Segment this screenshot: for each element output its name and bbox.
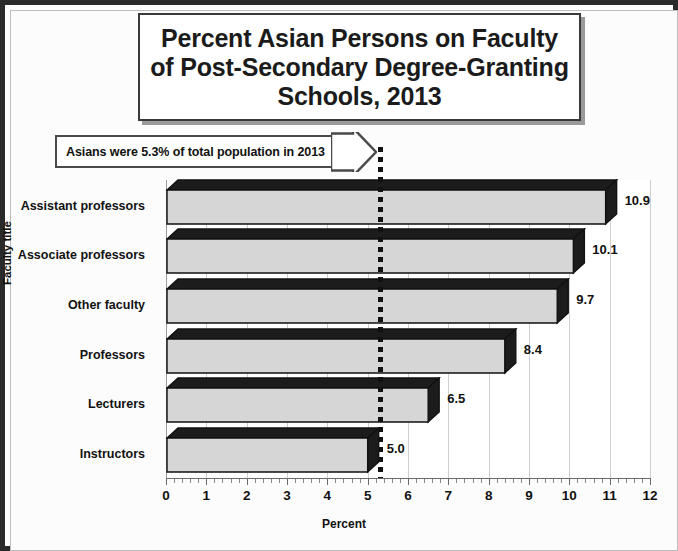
x-axis-minor-tick bbox=[376, 479, 377, 483]
x-axis-minor-tick bbox=[473, 479, 474, 483]
x-axis-tick-label: 1 bbox=[191, 488, 221, 503]
bar-value-label: 10.9 bbox=[625, 193, 650, 208]
x-axis-minor-tick bbox=[545, 479, 546, 483]
bar[interactable] bbox=[166, 228, 586, 275]
x-axis-tick-label: 0 bbox=[151, 488, 181, 503]
x-axis-minor-tick bbox=[222, 479, 223, 483]
x-axis-minor-tick bbox=[255, 479, 256, 483]
x-axis-minor-tick bbox=[295, 479, 296, 483]
chart-title-box: Percent Asian Persons on Faculty of Post… bbox=[138, 13, 581, 121]
x-axis-tick bbox=[166, 478, 167, 485]
bar[interactable] bbox=[166, 278, 570, 325]
x-axis-tick-label: 6 bbox=[393, 488, 423, 503]
x-axis-minor-tick bbox=[440, 479, 441, 483]
x-axis-minor-tick bbox=[618, 479, 619, 483]
bar[interactable] bbox=[166, 179, 619, 226]
x-axis-tick bbox=[287, 478, 288, 485]
x-axis-tick-label: 11 bbox=[595, 488, 625, 503]
x-axis-tick-label: 3 bbox=[272, 488, 302, 503]
x-axis-minor-tick bbox=[343, 479, 344, 483]
x-axis-tick bbox=[489, 478, 490, 485]
bar-3d-shape bbox=[166, 377, 441, 424]
bar[interactable] bbox=[166, 377, 441, 424]
x-axis-tick-label: 10 bbox=[554, 488, 584, 503]
x-axis-minor-tick bbox=[585, 479, 586, 483]
bar-value-label: 8.4 bbox=[524, 342, 542, 357]
x-axis-minor-tick bbox=[416, 479, 417, 483]
x-axis-tick bbox=[368, 478, 369, 485]
x-axis-minor-tick bbox=[432, 479, 433, 483]
chart-title-line-2: of Post-Secondary Degree-Granting bbox=[150, 53, 568, 82]
bar-3d-shape bbox=[166, 179, 619, 226]
x-axis-minor-tick bbox=[537, 479, 538, 483]
x-axis-minor-tick bbox=[521, 479, 522, 483]
x-axis-minor-tick bbox=[400, 479, 401, 483]
x-axis-minor-tick bbox=[634, 479, 635, 483]
x-axis-minor-tick bbox=[311, 479, 312, 483]
x-axis-minor-tick bbox=[271, 479, 272, 483]
x-axis-tick bbox=[610, 478, 611, 485]
bar-value-label: 9.7 bbox=[576, 292, 594, 307]
annotation-callout: Asians were 5.3% of total population in … bbox=[55, 132, 377, 172]
gridline bbox=[650, 180, 651, 478]
x-axis-minor-tick bbox=[577, 479, 578, 483]
x-axis-minor-tick bbox=[505, 479, 506, 483]
y-axis-category-label: Professors bbox=[80, 348, 145, 362]
annotation-callout-body: Asians were 5.3% of total population in … bbox=[55, 135, 335, 168]
x-axis-tick-label: 8 bbox=[474, 488, 504, 503]
x-axis-minor-tick bbox=[602, 479, 603, 483]
x-axis-tick-label: 12 bbox=[635, 488, 665, 503]
x-axis-minor-tick bbox=[214, 479, 215, 483]
x-axis-tick bbox=[650, 478, 651, 485]
x-axis-minor-tick bbox=[182, 479, 183, 483]
chart-title-line-3: Schools, 2013 bbox=[150, 82, 568, 111]
x-axis-tick bbox=[206, 478, 207, 485]
bar-3d-shape bbox=[166, 228, 586, 275]
bar[interactable] bbox=[166, 328, 518, 375]
x-axis-minor-tick bbox=[319, 479, 320, 483]
x-axis-minor-tick bbox=[464, 479, 465, 483]
x-axis-minor-tick bbox=[231, 479, 232, 483]
x-axis-tick-label: 2 bbox=[232, 488, 262, 503]
x-axis-minor-tick bbox=[626, 479, 627, 483]
x-axis-minor-tick bbox=[553, 479, 554, 483]
x-axis-minor-tick bbox=[497, 479, 498, 483]
bar-3d-shape bbox=[166, 328, 518, 375]
x-axis-minor-tick bbox=[335, 479, 336, 483]
y-axis-category-labels: Assistant professorsAssociate professors… bbox=[5, 180, 157, 478]
x-axis-title: Percent bbox=[5, 517, 678, 531]
reference-line bbox=[378, 147, 383, 478]
annotation-text: Asians were 5.3% of total population in … bbox=[57, 145, 325, 159]
x-axis-minor-tick bbox=[481, 479, 482, 483]
x-axis-minor-tick bbox=[594, 479, 595, 483]
bar-value-label: 5.0 bbox=[387, 441, 405, 456]
x-axis-minor-tick bbox=[198, 479, 199, 483]
y-axis-category-label: Instructors bbox=[80, 447, 145, 461]
plot-area: 5.06.58.49.710.110.9 bbox=[166, 180, 650, 478]
y-axis-category-label: Associate professors bbox=[18, 248, 145, 262]
x-axis-minor-tick bbox=[279, 479, 280, 483]
bar-3d-shape bbox=[166, 427, 381, 474]
bar[interactable] bbox=[166, 427, 381, 474]
x-axis-minor-tick bbox=[174, 479, 175, 483]
x-axis-minor-tick bbox=[561, 479, 562, 483]
annotation-arrow-icon bbox=[331, 132, 377, 172]
bar-value-label: 10.1 bbox=[592, 242, 617, 257]
x-axis-tick bbox=[569, 478, 570, 485]
y-axis-category-label: Other faculty bbox=[68, 298, 145, 312]
x-axis-minor-tick bbox=[303, 479, 304, 483]
x-axis-tick bbox=[529, 478, 530, 485]
x-axis-minor-tick bbox=[239, 479, 240, 483]
chart-title: Percent Asian Persons on Faculty of Post… bbox=[144, 24, 574, 111]
x-axis-tick bbox=[327, 478, 328, 485]
x-axis-tick bbox=[448, 478, 449, 485]
x-axis-minor-tick bbox=[642, 479, 643, 483]
x-axis-minor-tick bbox=[352, 479, 353, 483]
x-axis-minor-tick bbox=[384, 479, 385, 483]
x-axis-minor-tick bbox=[263, 479, 264, 483]
chart-title-line-1: Percent Asian Persons on Faculty bbox=[150, 24, 568, 53]
y-axis-category-label: Assistant professors bbox=[21, 199, 145, 213]
x-axis-minor-tick bbox=[456, 479, 457, 483]
bar-3d-shape bbox=[166, 278, 570, 325]
bar-value-label: 6.5 bbox=[447, 391, 465, 406]
